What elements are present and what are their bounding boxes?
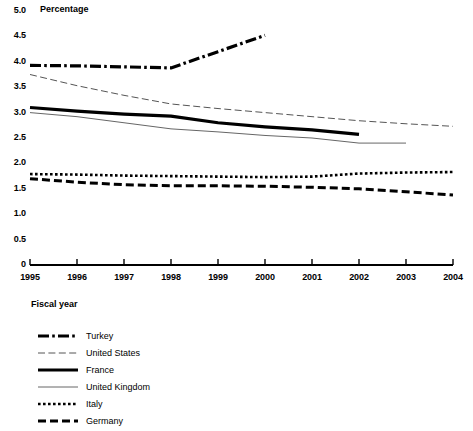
- legend-item[interactable]: United States: [31, 344, 271, 361]
- series-line-united-kingdom: [30, 113, 406, 143]
- x-tick-label: 2002: [339, 272, 379, 282]
- legend-swatch-icon: [38, 330, 78, 342]
- y-tick-label: 0.5: [2, 234, 26, 244]
- line-chart: Percentage 5.04.54.03.53.02.52.01.51.00.…: [0, 0, 473, 431]
- x-axis-title: Fiscal year: [31, 299, 78, 309]
- legend-label: Turkey: [86, 331, 113, 341]
- x-tick-label: 1996: [57, 272, 97, 282]
- y-tick-label: 1.5: [2, 183, 26, 193]
- y-tick-label: 4.5: [2, 30, 26, 40]
- legend-label: Germany: [86, 416, 123, 426]
- x-tick-label: 1998: [151, 272, 191, 282]
- y-tick-label: 3.0: [2, 107, 26, 117]
- series-line-germany: [30, 179, 453, 195]
- legend-label: United States: [86, 348, 140, 358]
- y-tick-label: 0: [2, 259, 26, 269]
- series-layer: [30, 35, 453, 195]
- legend-swatch-icon: [38, 381, 78, 393]
- y-tick-label: 4.0: [2, 56, 26, 66]
- legend-label: Italy: [86, 399, 103, 409]
- series-line-turkey: [30, 35, 265, 68]
- x-tick-label: 1999: [198, 272, 238, 282]
- x-tick-label: 1995: [10, 272, 50, 282]
- y-tick-label: 1.0: [2, 208, 26, 218]
- x-tick-label: 2001: [292, 272, 332, 282]
- x-tick-label: 2000: [245, 272, 285, 282]
- y-tick-label: 3.5: [2, 81, 26, 91]
- legend-swatch-icon: [38, 347, 78, 359]
- legend-item[interactable]: France: [31, 361, 271, 378]
- chart-legend: TurkeyUnited StatesFranceUnited KingdomI…: [31, 327, 271, 429]
- legend-item[interactable]: Germany: [31, 412, 271, 429]
- y-tick-label: 2.0: [2, 157, 26, 167]
- legend-swatch-icon: [38, 364, 78, 376]
- legend-label: United Kingdom: [86, 382, 150, 392]
- legend-swatch-icon: [38, 398, 78, 410]
- x-tick-label: 2003: [386, 272, 426, 282]
- legend-item[interactable]: Italy: [31, 395, 271, 412]
- legend-item[interactable]: United Kingdom: [31, 378, 271, 395]
- y-tick-label: 2.5: [2, 132, 26, 142]
- y-tick-label: 5.0: [2, 5, 26, 15]
- legend-item[interactable]: Turkey: [31, 327, 271, 344]
- x-tick-label: 1997: [104, 272, 144, 282]
- series-line-italy: [30, 172, 453, 177]
- legend-label: France: [86, 365, 114, 375]
- x-tick-label: 2004: [433, 272, 473, 282]
- axis-layer: [30, 259, 453, 265]
- legend-swatch-icon: [38, 415, 78, 427]
